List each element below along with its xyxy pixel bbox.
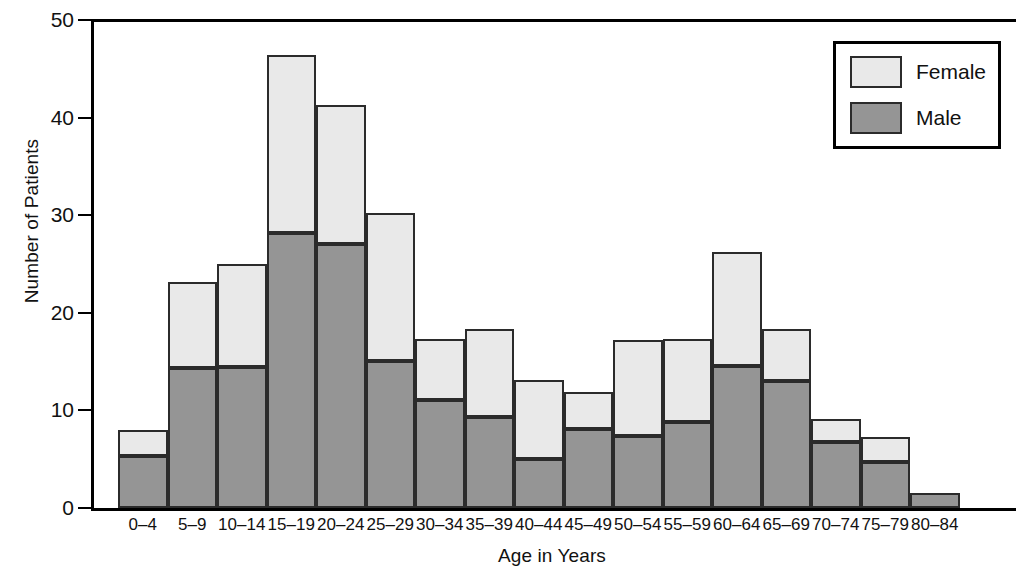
y-tick-mark — [78, 19, 92, 21]
legend-label-male: Male — [916, 104, 962, 132]
legend-swatch-female-icon — [850, 56, 902, 88]
bar-segment-male — [465, 417, 515, 508]
bar-segment-male — [217, 367, 267, 508]
y-tick-mark — [78, 117, 92, 119]
bar-segment-male — [910, 493, 960, 508]
bar-segment-female — [811, 419, 861, 441]
y-tick-label: 50 — [4, 9, 74, 30]
bar-segment-female — [861, 437, 911, 462]
x-tick-label: 80–84 — [904, 512, 966, 538]
x-axis-tick-labels: 0–45–910–1415–1920–2425–2930–3435–3940–4… — [92, 512, 1016, 542]
bar-segment-female — [762, 329, 812, 381]
y-tick-mark — [78, 507, 92, 509]
legend-label-female: Female — [916, 58, 986, 86]
y-tick-label: 30 — [4, 204, 74, 225]
bar-segment-male — [267, 233, 317, 508]
y-tick-mark — [78, 409, 92, 411]
bar-segment-male — [762, 381, 812, 508]
y-axis-tick-labels: 01020304050 — [0, 0, 74, 520]
bar-segment-female — [316, 105, 366, 244]
bar-segment-male — [514, 459, 564, 508]
y-tick-label: 0 — [4, 497, 74, 518]
bar-segment-male — [118, 456, 168, 508]
bar-segment-female — [613, 340, 663, 436]
y-tick-mark — [78, 312, 92, 314]
y-tick-label: 10 — [4, 399, 74, 420]
bar-segment-male — [663, 422, 713, 508]
bar-segment-male — [564, 429, 614, 508]
bar-segment-female — [118, 430, 168, 456]
bar-segment-female — [168, 282, 218, 369]
y-tick-mark — [78, 214, 92, 216]
bar-segment-female — [217, 264, 267, 367]
bar-segment-female — [415, 339, 465, 400]
bar-segment-female — [267, 55, 317, 233]
bar-segment-male — [811, 442, 861, 508]
bar-segment-male — [861, 462, 911, 508]
x-axis-title: Age in Years — [92, 545, 1012, 566]
bar-segment-female — [366, 213, 416, 360]
chart-legend: Female Male — [833, 41, 1001, 149]
bar-segment-male — [613, 436, 663, 508]
legend-swatch-male-icon — [850, 102, 902, 134]
bar-segment-male — [168, 368, 218, 508]
bar-segment-male — [366, 361, 416, 508]
y-tick-label: 40 — [4, 107, 74, 128]
bar-segment-female — [514, 380, 564, 459]
bar-segment-female — [465, 329, 515, 417]
bar-segment-male — [415, 400, 465, 508]
bar-segment-male — [316, 244, 366, 508]
bar-segment-female — [663, 339, 713, 422]
x-axis-line — [91, 508, 1016, 511]
bar-segment-female — [564, 392, 614, 429]
chart-figure: Number of Patients 01020304050 0–45–910–… — [0, 0, 1016, 566]
bar-segment-female — [712, 252, 762, 366]
bar-segment-male — [712, 366, 762, 508]
y-tick-label: 20 — [4, 302, 74, 323]
